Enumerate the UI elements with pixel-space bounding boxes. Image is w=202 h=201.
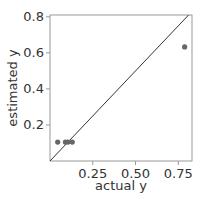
x-tick-label: 0.75 (164, 166, 193, 181)
y-tick-label: 0.8 (23, 9, 44, 24)
data-point (182, 44, 187, 49)
data-point (55, 139, 60, 144)
scatter-chart: 0.20.40.60.8 0.250.500.75 actual y estim… (0, 0, 202, 201)
x-axis-label: actual y (95, 178, 147, 193)
y-tick-label: 0.4 (23, 81, 44, 96)
y-tick-label: 0.6 (23, 45, 44, 60)
data-point (70, 139, 75, 144)
y-axis: 0.20.40.60.8 (23, 9, 50, 132)
y-tick-label: 0.2 (23, 117, 44, 132)
y-axis-label: estimated y (5, 49, 20, 127)
